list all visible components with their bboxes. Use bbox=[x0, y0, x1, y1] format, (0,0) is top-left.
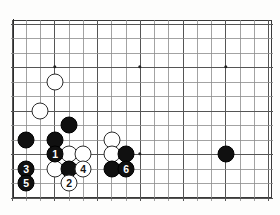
black-stone[interactable] bbox=[18, 132, 35, 149]
white-stone[interactable] bbox=[32, 103, 49, 120]
black-stone-move-5[interactable]: 5 bbox=[18, 175, 35, 192]
white-stone-move-2[interactable]: 2 bbox=[61, 175, 78, 192]
stone-move-number: 5 bbox=[23, 177, 29, 188]
go-diagram-page: 134652 bbox=[0, 0, 280, 215]
stone-move-number: 3 bbox=[23, 163, 29, 174]
black-stone[interactable] bbox=[61, 117, 78, 134]
stone-move-number: 2 bbox=[66, 177, 72, 188]
stone-move-number: 1 bbox=[52, 148, 58, 159]
stone-move-number: 6 bbox=[123, 163, 129, 174]
black-stone[interactable] bbox=[218, 146, 235, 163]
black-stone-move-6[interactable]: 6 bbox=[118, 161, 135, 178]
white-stone[interactable] bbox=[47, 74, 64, 91]
white-stone-move-4[interactable]: 4 bbox=[75, 161, 92, 178]
black-stone-move-1[interactable]: 1 bbox=[47, 146, 64, 163]
stone-move-number: 4 bbox=[80, 163, 86, 174]
